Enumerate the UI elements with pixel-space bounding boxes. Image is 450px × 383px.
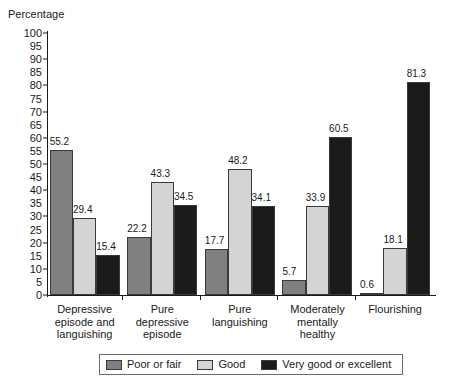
bar[interactable]	[127, 237, 150, 295]
y-axis-tick-label: 20	[0, 237, 47, 248]
y-axis-tick-mark	[43, 111, 47, 112]
y-axis-tick-mark	[43, 137, 47, 138]
y-axis-tick-label: 15	[0, 250, 47, 261]
y-axis-tick-mark	[43, 268, 47, 269]
bar-group: 22.243.334.5	[127, 33, 197, 295]
y-axis-tick-mark	[43, 242, 47, 243]
legend-swatch-icon	[261, 360, 277, 370]
bar-value-label: 33.9	[306, 193, 325, 203]
bar-value-label: 17.7	[205, 236, 224, 246]
bar[interactable]	[205, 249, 228, 295]
bar[interactable]	[360, 293, 383, 295]
bar[interactable]	[329, 137, 352, 296]
bar[interactable]	[306, 206, 329, 295]
y-axis-tick-label: 30	[0, 211, 47, 222]
y-axis-tick-mark	[43, 164, 47, 165]
bar-group: 0.618.181.3	[360, 33, 430, 295]
bar[interactable]	[151, 182, 174, 295]
x-axis-category-label: Flourishing	[345, 303, 445, 316]
bar-group: 5.733.960.5	[282, 33, 352, 295]
bar-value-label: 81.3	[407, 69, 426, 79]
y-axis-tick-mark	[43, 295, 47, 296]
y-axis-tick-label: 25	[0, 224, 47, 235]
y-axis-tick-mark	[43, 59, 47, 60]
y-axis-tick-label: 10	[0, 263, 47, 274]
bar-group: 55.229.415.4	[50, 33, 120, 295]
legend-label: Poor or fair	[127, 359, 181, 370]
y-axis-tick-label: 35	[0, 198, 47, 209]
legend-label: Very good or excellent	[282, 359, 391, 370]
bar[interactable]	[228, 169, 251, 295]
bar[interactable]	[96, 255, 119, 295]
x-axis-line	[47, 295, 436, 296]
bar[interactable]	[174, 205, 197, 295]
y-axis-tick-label: 65	[0, 119, 47, 130]
bar[interactable]	[73, 218, 96, 295]
bar[interactable]	[282, 280, 305, 295]
bar-value-label: 15.4	[96, 242, 115, 252]
y-axis-tick-label: 55	[0, 145, 47, 156]
bar-value-label: 34.5	[174, 192, 193, 202]
legend-swatch-icon	[197, 360, 213, 370]
y-axis-tick-mark	[43, 33, 47, 34]
bar-value-label: 43.3	[151, 169, 170, 179]
y-axis-tick-label: 5	[0, 276, 47, 287]
bar[interactable]	[50, 150, 73, 295]
x-axis-tick-mark	[200, 295, 201, 300]
legend-label: Good	[218, 359, 245, 370]
y-axis-tick-label: 75	[0, 93, 47, 104]
y-axis-tick-label: 100	[0, 28, 47, 39]
chart-legend: Poor or fairGoodVery good or excellent	[99, 354, 403, 375]
y-axis-tick-label: 95	[0, 41, 47, 52]
y-axis-tick-label: 80	[0, 80, 47, 91]
x-axis-tick-mark	[277, 295, 278, 300]
y-axis-tick-label: 45	[0, 172, 47, 183]
bar-value-label: 29.4	[73, 205, 92, 215]
bar-chart: Percentage 55.229.415.422.243.334.517.74…	[0, 0, 450, 383]
y-axis-tick-mark	[43, 85, 47, 86]
x-axis-tick-mark	[355, 295, 356, 300]
legend-item[interactable]: Poor or fair	[106, 359, 181, 370]
legend-item[interactable]: Very good or excellent	[261, 359, 391, 370]
y-axis-tick-label: 85	[0, 67, 47, 78]
bar[interactable]	[252, 206, 275, 295]
x-axis-tick-mark	[122, 295, 123, 300]
bar-value-label: 55.2	[50, 137, 69, 147]
bar-value-label: 48.2	[228, 156, 247, 166]
bar-value-label: 0.6	[360, 280, 374, 290]
bar-value-label: 22.2	[127, 224, 146, 234]
y-axis-tick-label: 40	[0, 185, 47, 196]
bar[interactable]	[383, 248, 406, 295]
y-axis-tick-mark	[43, 216, 47, 217]
y-axis-tick-label: 50	[0, 159, 47, 170]
legend-swatch-icon	[106, 360, 122, 370]
bar-value-label: 60.5	[329, 124, 348, 134]
legend-item[interactable]: Good	[197, 359, 245, 370]
y-axis-tick-mark	[43, 190, 47, 191]
bar-value-label: 34.1	[252, 193, 271, 203]
bar-value-label: 5.7	[282, 267, 296, 277]
bar[interactable]	[407, 82, 430, 295]
y-axis-tick-label: 60	[0, 132, 47, 143]
bar-value-label: 18.1	[383, 235, 402, 245]
y-axis-tick-label: 90	[0, 54, 47, 65]
y-axis-tick-label: 0	[0, 290, 47, 301]
y-axis-title: Percentage	[8, 8, 64, 20]
plot-area: 55.229.415.422.243.334.517.748.234.15.73…	[47, 33, 435, 295]
y-axis-tick-label: 70	[0, 106, 47, 117]
bar-group: 17.748.234.1	[205, 33, 275, 295]
